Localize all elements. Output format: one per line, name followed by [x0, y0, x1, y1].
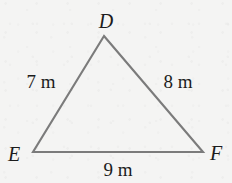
vertex-label-d: D	[99, 11, 113, 31]
side-length-label-de: 7 m	[26, 72, 55, 91]
triangle-outline-svg	[0, 0, 232, 183]
vertex-label-e: E	[8, 144, 20, 164]
vertex-label-f: F	[210, 143, 222, 163]
side-length-label-df: 8 m	[163, 72, 192, 91]
triangle-figure: D E F 7 m 8 m 9 m	[0, 0, 232, 183]
triangle-shape	[33, 36, 203, 152]
side-length-label-ef: 9 m	[103, 160, 132, 179]
